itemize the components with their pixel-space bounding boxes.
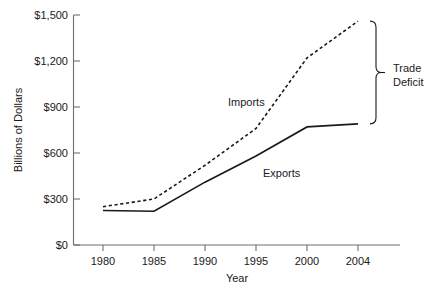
- y-tick-labels: $0$300$600$900$1,200$1,500: [34, 9, 68, 251]
- y-axis-title: Billions of Dollars: [12, 87, 24, 172]
- y-tick-marks: [74, 15, 81, 245]
- y-tick-label: $0: [56, 239, 68, 251]
- x-tick-label: 2000: [295, 255, 319, 267]
- y-tick-label: $900: [44, 101, 68, 113]
- x-tick-label: 2004: [346, 255, 370, 267]
- x-axis-title: Year: [226, 272, 249, 284]
- x-tick-label: 1990: [193, 255, 217, 267]
- y-tick-label: $600: [44, 147, 68, 159]
- trade-deficit-label-line2: Deficit: [393, 76, 424, 88]
- x-tick-label: 1985: [142, 255, 166, 267]
- x-tick-label: 1995: [244, 255, 268, 267]
- exports-series-label: Exports: [263, 167, 301, 179]
- trade-deficit-bracket: [370, 21, 385, 124]
- y-tick-label: $1,500: [34, 9, 68, 21]
- x-tick-label: 1980: [91, 255, 115, 267]
- imports-line: [103, 21, 358, 207]
- figure-container: $0$300$600$900$1,200$1,500 1980198519901…: [0, 0, 436, 300]
- imports-series-label: Imports: [228, 96, 265, 108]
- y-tick-label: $300: [44, 193, 68, 205]
- line-chart: $0$300$600$900$1,200$1,500 1980198519901…: [0, 0, 436, 300]
- y-tick-label: $1,200: [34, 55, 68, 67]
- exports-line: [103, 124, 358, 211]
- trade-deficit-label-line1: Trade: [393, 62, 421, 74]
- x-tick-labels: 198019851990199520002004: [91, 255, 370, 267]
- x-tick-marks: [103, 245, 358, 251]
